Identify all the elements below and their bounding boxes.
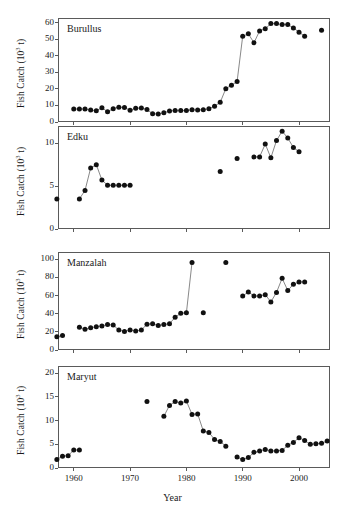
data-point: [308, 442, 313, 447]
data-point: [195, 411, 200, 416]
data-point: [280, 448, 285, 453]
data-point: [274, 448, 279, 453]
data-point: [302, 438, 307, 443]
data-point: [206, 430, 211, 435]
data-point: [178, 401, 183, 406]
data-point: [60, 454, 65, 459]
data-point: [144, 399, 149, 404]
data-point: [291, 440, 296, 445]
scatter-series: [0, 0, 345, 512]
figure-root: Fish Catch (103 t) Fish Catch (103 t) Fi…: [0, 0, 345, 512]
data-point: [263, 447, 268, 452]
data-point: [66, 453, 71, 458]
data-point: [297, 435, 302, 440]
data-point: [167, 403, 172, 408]
data-point: [218, 439, 223, 444]
data-point: [54, 457, 59, 462]
series-segment: [198, 414, 204, 431]
data-point: [268, 448, 273, 453]
data-point: [325, 438, 330, 443]
data-point: [257, 448, 262, 453]
data-point: [201, 429, 206, 434]
panel-maryut: 0510152019601970198019902000Maryut: [0, 0, 345, 512]
data-point: [235, 455, 240, 460]
data-point: [246, 455, 251, 460]
data-point: [77, 447, 82, 452]
data-point: [285, 443, 290, 448]
data-point: [212, 437, 217, 442]
data-point: [251, 450, 256, 455]
data-point: [190, 412, 195, 417]
data-point: [173, 399, 178, 404]
data-point: [223, 444, 228, 449]
data-point: [71, 447, 76, 452]
data-point: [319, 441, 324, 446]
data-point: [313, 441, 318, 446]
data-point: [161, 414, 166, 419]
data-point: [240, 457, 245, 462]
x-axis-label: Year: [0, 492, 345, 503]
data-point: [184, 399, 189, 404]
